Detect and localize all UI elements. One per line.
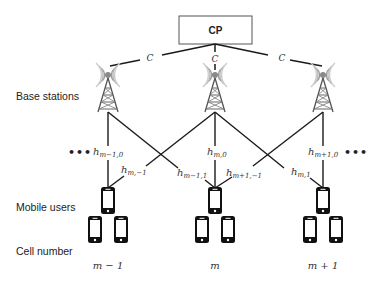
channel-label: hm,1 bbox=[291, 166, 311, 179]
smartphone-icon bbox=[195, 216, 209, 243]
smartphone-icon bbox=[316, 187, 330, 214]
channel-label: hm+1,−1 bbox=[226, 167, 262, 180]
channel-label: hm,0 bbox=[207, 146, 227, 159]
capacity-label-middle: C bbox=[212, 54, 219, 64]
smartphone-icon bbox=[329, 216, 343, 243]
row-label-base-stations: Base stations bbox=[16, 90, 79, 102]
cell-tower-icon bbox=[96, 63, 120, 112]
capacity-label-left: C bbox=[147, 53, 154, 63]
ellipsis-right: ••• bbox=[344, 146, 368, 159]
capacity-label-right: C bbox=[279, 53, 286, 63]
cell-number-label: m + 1 bbox=[303, 260, 343, 271]
smartphone-icon bbox=[114, 216, 128, 243]
row-label-mobile-users: Mobile users bbox=[16, 201, 76, 213]
channel-label: hm−1,1 bbox=[177, 167, 207, 180]
channel-label: hm,−1 bbox=[121, 164, 147, 177]
cell-tower-icon bbox=[203, 63, 227, 112]
smartphone-icon bbox=[101, 187, 115, 214]
smartphone-icon bbox=[88, 216, 102, 243]
channel-label: hm+1,0 bbox=[308, 146, 338, 159]
smartphone-icon bbox=[303, 216, 317, 243]
smartphone-icon bbox=[221, 216, 235, 243]
cp-label: CP bbox=[209, 25, 223, 36]
cell-number-label: m − 1 bbox=[88, 260, 128, 271]
cell-tower-icon bbox=[311, 63, 335, 112]
channel-label: hm−1,0 bbox=[93, 146, 123, 159]
row-label-cell-number: Cell number bbox=[16, 245, 73, 257]
smartphone-icon bbox=[208, 187, 222, 214]
ellipsis-left: ••• bbox=[68, 146, 92, 159]
cell-number-label: m bbox=[195, 260, 235, 271]
